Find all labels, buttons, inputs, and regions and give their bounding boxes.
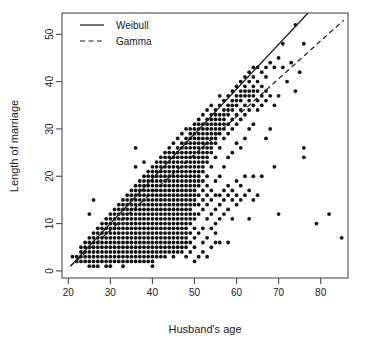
data-point	[71, 255, 75, 259]
data-point	[256, 108, 260, 112]
data-point	[222, 189, 226, 193]
data-point	[87, 250, 91, 254]
data-point	[159, 245, 163, 249]
data-point	[92, 236, 96, 240]
data-point	[209, 212, 213, 216]
data-point	[277, 56, 281, 60]
data-point	[260, 174, 264, 178]
data-point	[205, 184, 209, 188]
data-point	[151, 170, 155, 174]
data-point	[172, 179, 176, 183]
data-point	[159, 222, 163, 226]
data-point	[239, 94, 243, 98]
data-point	[188, 184, 192, 188]
y-tick-label: 20	[44, 170, 55, 182]
data-point	[180, 132, 184, 136]
data-point	[193, 127, 197, 131]
data-point	[251, 75, 255, 79]
data-point	[167, 198, 171, 202]
data-point	[239, 99, 243, 103]
data-point	[176, 250, 180, 254]
data-point	[167, 245, 171, 249]
data-point	[104, 217, 108, 221]
data-point	[222, 113, 226, 117]
data-point	[167, 217, 171, 221]
x-axis-title: Husband's age	[168, 323, 241, 335]
data-point	[218, 94, 222, 98]
data-point	[151, 184, 155, 188]
data-point	[205, 132, 209, 136]
data-point	[184, 165, 188, 169]
data-point	[172, 236, 176, 240]
data-point	[230, 99, 234, 103]
data-point	[100, 245, 104, 249]
data-point	[230, 127, 234, 131]
data-point	[235, 193, 239, 197]
y-axis-title: Length of marriage	[8, 100, 20, 192]
data-point	[146, 241, 150, 245]
data-point	[121, 222, 125, 226]
data-point	[163, 245, 167, 249]
data-point	[113, 245, 117, 249]
data-point	[184, 231, 188, 235]
data-point	[125, 260, 129, 264]
data-point	[155, 198, 159, 202]
data-point	[134, 231, 138, 235]
data-point	[159, 236, 163, 240]
data-point	[96, 245, 100, 249]
data-point	[277, 212, 281, 216]
data-point	[201, 198, 205, 202]
data-point	[142, 160, 146, 164]
data-point	[155, 212, 159, 216]
data-point	[264, 137, 268, 141]
data-point	[142, 207, 146, 211]
data-point	[193, 165, 197, 169]
data-point	[209, 151, 213, 155]
data-point	[134, 255, 138, 259]
data-point	[180, 207, 184, 211]
data-point	[176, 137, 180, 141]
data-point	[121, 226, 125, 230]
data-point	[193, 170, 197, 174]
data-point	[180, 217, 184, 221]
data-point	[281, 42, 285, 46]
data-point	[108, 241, 112, 245]
y-tick-label: 10	[44, 218, 55, 230]
data-point	[205, 127, 209, 131]
data-point	[184, 212, 188, 216]
data-point	[96, 250, 100, 254]
data-point	[142, 203, 146, 207]
data-point	[117, 250, 121, 254]
data-point	[151, 212, 155, 216]
data-point	[155, 226, 159, 230]
data-point	[205, 108, 209, 112]
data-point	[184, 203, 188, 207]
data-point	[138, 226, 142, 230]
data-point	[151, 236, 155, 240]
data-point	[134, 217, 138, 221]
data-point	[209, 132, 213, 136]
data-point	[155, 184, 159, 188]
data-point	[138, 231, 142, 235]
data-point	[159, 212, 163, 216]
data-point	[167, 174, 171, 178]
data-point	[260, 84, 264, 88]
data-point	[188, 170, 192, 174]
data-point	[188, 151, 192, 155]
data-point	[193, 226, 197, 230]
data-point	[193, 189, 197, 193]
data-point	[108, 260, 112, 264]
data-point	[159, 231, 163, 235]
data-point	[100, 260, 104, 264]
data-point	[121, 255, 125, 259]
data-point	[180, 226, 184, 230]
data-point	[184, 217, 188, 221]
data-point	[172, 193, 176, 197]
data-point	[197, 122, 201, 126]
data-point	[155, 207, 159, 211]
data-point	[180, 198, 184, 202]
data-point	[268, 61, 272, 65]
data-point	[218, 241, 222, 245]
data-point	[134, 250, 138, 254]
data-point	[184, 241, 188, 245]
